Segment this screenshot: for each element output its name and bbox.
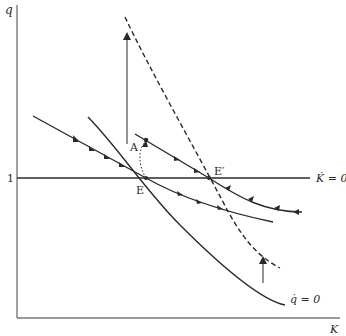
- k-dot-zero-label: K̇ = 0: [315, 172, 346, 185]
- phase-diagram: q K 1 E E′ A K̇ = 0 q̇ = 0: [0, 0, 346, 336]
- saddle-path-old: [33, 116, 273, 222]
- point-e-marker: [144, 176, 148, 180]
- q-dot-zero-locus: [88, 117, 285, 305]
- axes: [17, 5, 340, 318]
- q-dot-zero-label: q̇ = 0: [290, 293, 320, 306]
- jump-path-dotted: [140, 142, 146, 178]
- point-e-prime-label: E′: [214, 165, 225, 178]
- new-saddle-arrows: [174, 156, 299, 215]
- point-e-prime-marker: [207, 176, 211, 180]
- y-tick-one: 1: [7, 172, 14, 185]
- point-e-label: E: [136, 184, 144, 197]
- point-a-label: A: [129, 141, 139, 154]
- x-axis-label: K: [329, 323, 339, 336]
- y-axis-label: q: [5, 3, 13, 17]
